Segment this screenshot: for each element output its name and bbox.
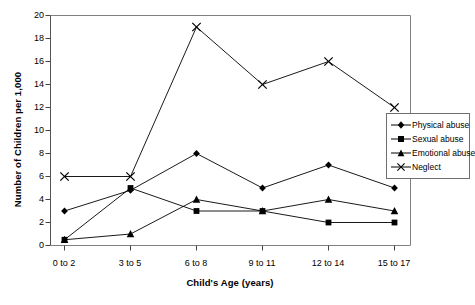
data-point <box>259 185 266 192</box>
cross-marker-icon <box>391 161 411 173</box>
data-point <box>390 103 398 111</box>
legend-label: Physical abuse <box>411 120 469 130</box>
legend-item-emotional-abuse: Emotional abuse <box>389 146 467 160</box>
data-point <box>127 230 135 237</box>
legend-label: Emotional abuse <box>411 148 475 158</box>
data-point <box>193 196 201 203</box>
legend-item-neglect: Neglect <box>389 160 467 174</box>
triangle-marker-icon <box>391 147 411 159</box>
series-neglect <box>60 23 398 181</box>
data-point <box>326 220 332 226</box>
legend-label: Neglect <box>411 162 441 172</box>
series-sexual-abuse <box>62 185 398 243</box>
data-point <box>61 208 68 215</box>
diamond-marker-icon <box>391 119 411 131</box>
data-point <box>325 162 332 169</box>
data-point <box>391 185 398 192</box>
data-point <box>193 150 200 157</box>
data-point <box>258 80 266 88</box>
legend-label: Sexual abuse <box>411 134 464 144</box>
series-layer <box>60 23 398 243</box>
chart-legend: Physical abuse Sexual abuse Emotional ab… <box>386 113 470 179</box>
legend-item-sexual-abuse: Sexual abuse <box>389 132 467 146</box>
series-physical-abuse <box>61 150 398 214</box>
square-marker-icon <box>391 133 411 145</box>
y-axis-ticks <box>46 16 51 246</box>
data-point <box>194 208 200 214</box>
x-axis-ticks <box>65 246 395 251</box>
data-point <box>325 196 333 203</box>
data-point <box>192 23 200 31</box>
data-point <box>324 57 332 65</box>
data-point <box>392 220 398 226</box>
legend-item-physical-abuse: Physical abuse <box>389 118 467 132</box>
data-point <box>128 185 134 191</box>
